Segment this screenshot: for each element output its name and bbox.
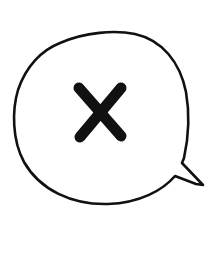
illustration [0, 0, 223, 268]
